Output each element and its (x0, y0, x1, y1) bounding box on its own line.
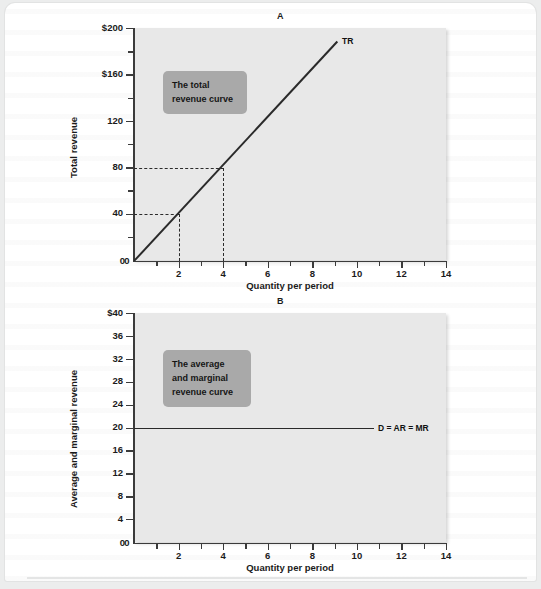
panel-b-xlabel-0: 0 (117, 537, 137, 548)
panel-b-demand-curve (134, 428, 374, 429)
panel-a-letter: A (277, 11, 284, 21)
panel-b-ytick-32 (126, 359, 133, 360)
panel-a-ytick-200 (126, 28, 133, 29)
panel-a-ylabel-120: 120 (76, 115, 123, 126)
panel-b-xtick-4 (223, 543, 224, 550)
panel-a-ylabel-200: $200 (76, 22, 123, 33)
panel-a-ylabel-40: 40 (76, 207, 123, 218)
panel-a-xlabel-10: 10 (347, 268, 367, 279)
panel-b-xtick-12 (401, 543, 402, 550)
panel-b-xtick-6 (268, 543, 269, 550)
panel-a-xtick-6 (268, 261, 269, 268)
panel-a-ytick-140 (128, 98, 133, 99)
panel-a-xlabel-6: 6 (258, 268, 278, 279)
panel-a-callout-line-2: revenue curve (172, 92, 238, 106)
panel-b-xlabel-10: 10 (347, 550, 367, 561)
panel-b-ytick-20 (126, 428, 133, 429)
panel-b-xtick-13 (424, 543, 425, 549)
panel-b-xtick-2 (179, 543, 180, 550)
panel-a-xtick-1 (156, 261, 157, 266)
panel-a-xtick-5 (245, 261, 246, 266)
panel-a-guide-v-2 (179, 214, 180, 261)
panel-b-xlabel-6: 6 (258, 550, 278, 561)
panel-a-xtick-13 (424, 261, 425, 266)
panel-a-xtick-14 (446, 261, 447, 268)
panel-b-x-axis-title: Quantity per period (225, 562, 355, 573)
panel-a-ytick-60 (128, 190, 133, 191)
panel-b-xtick-3 (201, 543, 202, 549)
panel-a-guide-h-80 (134, 168, 224, 169)
panel-a-guide-v-4 (223, 168, 224, 262)
panel-b-ylabel-28: 28 (76, 375, 123, 386)
panel-b-ylabel-40: $40 (76, 307, 123, 318)
panel-a-xtick-2 (179, 261, 180, 268)
panel-a-xtick-3 (201, 261, 202, 266)
panel-b-ytick-40 (126, 313, 133, 314)
figure-card: A $200 $160 120 80 40 0 Total revenue (5, 3, 536, 581)
panel-b-ylabel-32: 32 (76, 353, 123, 364)
panel-a-ytick-100 (128, 144, 133, 145)
panel-a-plot-area (134, 28, 446, 260)
panel-b-callout-line-3: revenue curve (172, 385, 242, 399)
panel-a-xlabel-8: 8 (302, 268, 322, 279)
panel-b-ylabel-20: 20 (76, 421, 123, 432)
panel-b-xtick-5 (245, 543, 246, 549)
panel-b-ytick-28 (126, 382, 133, 383)
panel-a-ytick-20 (128, 237, 133, 238)
panel-b-xtick-9 (335, 543, 336, 549)
panel-b-xlabel-14: 14 (436, 550, 456, 561)
panel-a-xtick-10 (357, 261, 358, 268)
panel-a-xtick-11 (379, 261, 380, 266)
bottom-divider (27, 577, 527, 579)
panel-b-xtick-10 (357, 543, 358, 550)
panel-b-callout: The average and marginal revenue curve (163, 350, 251, 407)
panel-a-xlabel-2: 2 (169, 268, 189, 279)
panel-a: A $200 $160 120 80 40 0 Total revenue (5, 3, 536, 288)
panel-b-ytick-12 (126, 473, 133, 474)
panel-a-tr-label: TR (342, 36, 353, 46)
panel-b-xlabel-2: 2 (169, 550, 189, 561)
panel-b-xtick-8 (312, 543, 313, 550)
panel-a-guide-h-40 (134, 214, 179, 215)
panel-b-ylabel-4: 4 (76, 513, 123, 524)
panel-a-ylabel-80: 80 (76, 161, 123, 172)
panel-b-y-axis-title: Average and marginal revenue (68, 370, 79, 508)
panel-b-ylabel-16: 16 (76, 444, 123, 455)
panel-b-ylabel-36: 36 (76, 330, 123, 341)
panel-b-callout-line-2: and marginal (172, 371, 242, 385)
panel-b: B $40 36 32 28 24 20 16 12 8 4 0 Average… (5, 288, 536, 581)
panel-a-xtick-8 (312, 261, 313, 268)
panel-a-xtick-9 (335, 261, 336, 266)
panel-b-xtick-14 (446, 543, 447, 550)
panel-a-xtick-12 (401, 261, 402, 268)
panel-a-xtick-4 (223, 261, 224, 268)
panel-b-letter: B (277, 296, 284, 306)
panel-b-ylabel-8: 8 (76, 490, 123, 501)
panel-b-xtick-11 (379, 543, 380, 549)
panel-a-ytick-120 (126, 121, 133, 122)
panel-b-xlabel-4: 4 (213, 550, 233, 561)
panel-a-ylabel-160: $160 (76, 68, 123, 79)
panel-a-callout: The total revenue curve (163, 71, 247, 114)
panel-a-xlabel-12: 12 (391, 268, 411, 279)
panel-a-xtick-7 (290, 261, 291, 266)
panel-b-ytick-4 (126, 519, 133, 520)
panel-b-ylabel-12: 12 (76, 467, 123, 478)
panel-b-ylabel-24: 24 (76, 398, 123, 409)
panel-a-y-axis (133, 28, 135, 262)
panel-a-callout-line-1: The total (172, 78, 238, 92)
panel-a-xlabel-14: 14 (436, 268, 456, 279)
panel-b-ytick-24 (126, 405, 133, 406)
panel-a-ytick-40 (126, 214, 133, 215)
panel-b-ytick-36 (126, 336, 133, 337)
panel-b-ytick-16 (126, 450, 133, 451)
panel-b-xlabel-12: 12 (391, 550, 411, 561)
panel-a-ytick-80 (126, 167, 133, 168)
panel-b-xlabel-8: 8 (302, 550, 322, 561)
panel-a-y-axis-title: Total revenue (68, 117, 79, 178)
panel-b-demand-label: D = AR = MR (378, 423, 429, 433)
panel-b-ytick-8 (126, 496, 133, 497)
panel-a-ytick-180 (128, 51, 133, 52)
panel-b-callout-line-1: The average (172, 357, 242, 371)
panel-b-xtick-1 (156, 543, 157, 549)
